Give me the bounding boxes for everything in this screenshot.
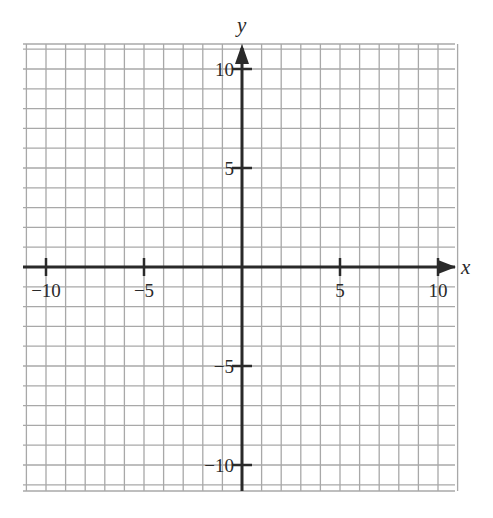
y-tick-label: −5 xyxy=(214,356,234,377)
x-tick-label: −5 xyxy=(134,280,154,301)
y-axis-label: y xyxy=(235,13,247,37)
y-tick-label: −10 xyxy=(204,455,234,476)
x-tick-label: 5 xyxy=(335,280,345,301)
coordinate-plane: −10−5510−10−5510 x y xyxy=(0,0,493,518)
axes xyxy=(23,44,456,491)
x-axis-label: x xyxy=(460,255,471,279)
y-tick-label: 5 xyxy=(225,158,235,179)
x-tick-label: −10 xyxy=(31,280,61,301)
y-axis-arrow-icon xyxy=(235,44,249,64)
x-axis-arrow-icon xyxy=(438,260,456,274)
y-tick-label: 10 xyxy=(215,59,234,80)
x-tick-label: 10 xyxy=(429,280,448,301)
